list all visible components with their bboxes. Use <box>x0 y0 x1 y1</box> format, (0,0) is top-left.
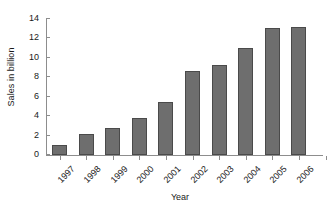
bar <box>52 145 67 155</box>
x-tick-mark <box>193 156 194 160</box>
x-tick-mark <box>166 156 167 160</box>
y-tick-label: 0 <box>34 148 39 161</box>
x-tick-mark <box>272 156 273 160</box>
y-tick-label: 12 <box>29 31 39 44</box>
y-tick-label: 14 <box>29 12 39 25</box>
bar <box>79 134 94 155</box>
y-tick-label: 4 <box>34 109 39 122</box>
x-tick-mark <box>219 156 220 160</box>
bars-layer <box>46 19 314 155</box>
x-tick-mark <box>86 156 87 160</box>
bar <box>291 27 306 155</box>
plot-area: 02468101214 <box>46 19 314 155</box>
x-tick-mark <box>326 156 327 160</box>
x-tick-mark <box>299 156 300 160</box>
y-tick-label: 8 <box>34 70 39 83</box>
y-tick-label: 6 <box>34 90 39 103</box>
y-axis-title: Sales in billion <box>4 2 18 152</box>
y-tick-label: 2 <box>34 129 39 142</box>
x-axis-title: Year <box>46 191 314 203</box>
bar <box>265 28 280 155</box>
x-tick-mark <box>246 156 247 160</box>
x-axis-line <box>46 155 323 156</box>
x-tick-mark <box>139 156 140 160</box>
bar <box>132 118 147 155</box>
x-tick-mark <box>113 156 114 160</box>
bar <box>238 48 253 155</box>
bar-chart: Sales in billion 02468101214 19971998199… <box>0 0 329 209</box>
bar <box>185 71 200 156</box>
y-tick-label: 10 <box>29 51 39 64</box>
x-tick-mark <box>60 156 61 160</box>
bar <box>212 65 227 155</box>
bar <box>105 128 120 155</box>
bar <box>158 102 173 155</box>
